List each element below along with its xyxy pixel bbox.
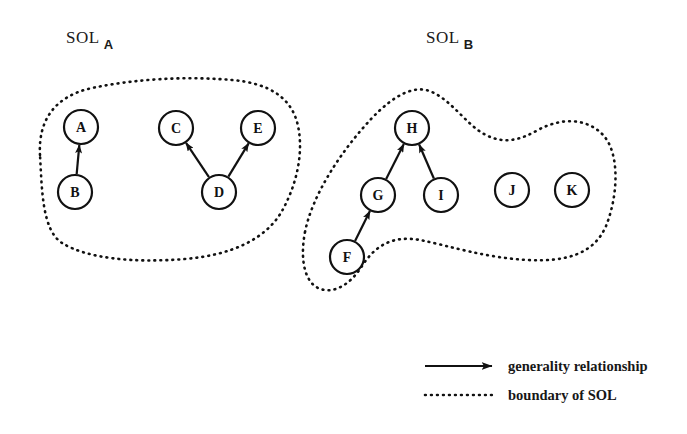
node-j[interactable]: J <box>495 173 529 207</box>
node-e[interactable]: E <box>241 111 275 145</box>
node-i[interactable]: I <box>424 178 458 212</box>
node-label-a: A <box>76 120 87 135</box>
node-label-e: E <box>253 121 262 136</box>
node-label-h: H <box>407 121 418 136</box>
concept-nodes: ABCDEFGHIJK <box>58 110 589 274</box>
edge-d-to-c <box>186 143 209 177</box>
legend-label-boundary-of-sol: boundary of SOL <box>508 387 617 404</box>
node-d[interactable]: D <box>202 175 236 209</box>
edge-i-to-h <box>419 145 434 179</box>
region-label-sol-b-word: SOL <box>426 28 460 47</box>
region-boundary-sol-a <box>40 78 300 260</box>
legend-label-generality-relationship: generality relationship <box>508 358 648 375</box>
node-h[interactable]: H <box>395 111 429 145</box>
edge-g-to-h <box>386 144 404 179</box>
node-label-d: D <box>214 185 224 200</box>
edge-f-to-g <box>355 211 370 241</box>
node-label-c: C <box>171 121 181 136</box>
node-label-g: G <box>373 188 384 203</box>
node-k[interactable]: K <box>555 173 589 207</box>
sol-generality-diagram: ABCDEFGHIJK SOLA SOLB generality relatio… <box>0 0 687 434</box>
region-label-sol-b: SOLB <box>426 28 469 48</box>
node-label-i: I <box>438 188 443 203</box>
node-f[interactable]: F <box>330 240 364 274</box>
node-a[interactable]: A <box>64 110 98 144</box>
edge-b-to-a <box>77 145 80 174</box>
node-label-j: J <box>509 183 516 198</box>
region-label-sol-a-subscript: A <box>104 37 113 52</box>
node-label-k: K <box>567 183 578 198</box>
region-label-sol-a-word: SOL <box>66 28 100 47</box>
node-c[interactable]: C <box>159 111 193 145</box>
node-b[interactable]: B <box>58 175 92 209</box>
node-label-b: B <box>70 185 79 200</box>
edge-d-to-e <box>228 143 248 176</box>
node-label-f: F <box>343 250 352 265</box>
region-label-sol-b-subscript: B <box>464 37 473 52</box>
region-label-sol-a: SOLA <box>66 28 109 48</box>
node-g[interactable]: G <box>361 178 395 212</box>
